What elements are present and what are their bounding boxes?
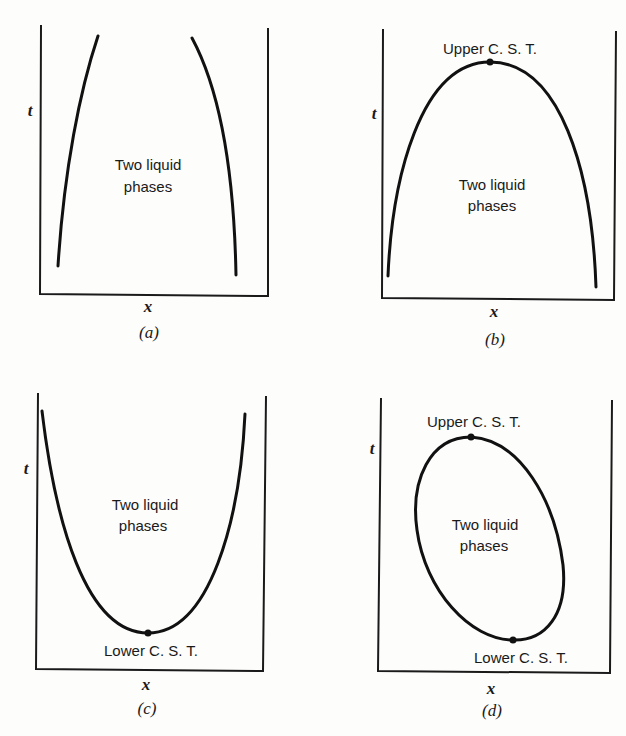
panel-b-upper-cst-dome-curve <box>388 62 596 287</box>
panel-d-lower-cst-label: Lower C. S. T. <box>474 649 568 666</box>
panel-d-x-axis-label: x <box>486 679 496 698</box>
panel-b-region-label-line1: Two liquid <box>459 176 526 193</box>
panel-d-upper-cst-point <box>468 434 475 441</box>
panel-c-y-axis-label: t <box>24 459 30 478</box>
panel-d-caption: (d) <box>482 701 502 720</box>
panel-a-region-label-line2: phases <box>124 178 172 195</box>
panel-d-region-label-line1: Two liquid <box>452 516 519 533</box>
panel-b-x-axis-label: x <box>489 302 499 321</box>
panel-c-region-label-line1: Two liquid <box>112 496 179 513</box>
panel-b-y-axis-label: t <box>372 104 378 123</box>
phase-diagram-figure: Two liquid phases t x (a) Upper C. S. T.… <box>0 0 626 736</box>
panel-b-caption: (b) <box>485 330 505 349</box>
panel-b: Upper C. S. T. Two liquid phases t x (b) <box>372 29 616 349</box>
panel-d-upper-cst-label: Upper C. S. T. <box>427 413 521 430</box>
panel-d-lower-cst-point <box>510 637 517 644</box>
panel-d-region-label-line2: phases <box>460 537 508 554</box>
panel-b-axes-frame <box>382 29 616 300</box>
panel-a-right-solubility-curve <box>192 38 236 275</box>
panel-c: Lower C. S. T. Two liquid phases t x (c) <box>24 393 266 718</box>
panel-a-y-axis-label: t <box>28 101 34 120</box>
panel-d-y-axis-label: t <box>370 439 376 458</box>
panel-d-axes-frame <box>378 398 612 673</box>
panel-a-region-label-line1: Two liquid <box>115 156 182 173</box>
panel-a-x-axis-label: x <box>143 297 153 316</box>
panel-d: Upper C. S. T. Lower C. S. T. Two liquid… <box>370 398 612 720</box>
panel-c-region-label-line2: phases <box>119 517 167 534</box>
panel-b-region-label-line2: phases <box>468 197 516 214</box>
panel-c-caption: (c) <box>138 699 157 718</box>
panel-a-left-solubility-curve <box>58 36 98 266</box>
panel-b-upper-cst-label: Upper C. S. T. <box>443 40 537 57</box>
panel-b-upper-cst-point <box>487 59 494 66</box>
panel-c-x-axis-label: x <box>141 675 151 694</box>
panel-a-caption: (a) <box>139 323 159 342</box>
figure-svg: Two liquid phases t x (a) Upper C. S. T.… <box>0 0 626 736</box>
panel-c-lower-cst-point <box>145 630 152 637</box>
panel-a: Two liquid phases t x (a) <box>28 25 268 342</box>
panel-c-lower-cst-label: Lower C. S. T. <box>104 642 198 659</box>
